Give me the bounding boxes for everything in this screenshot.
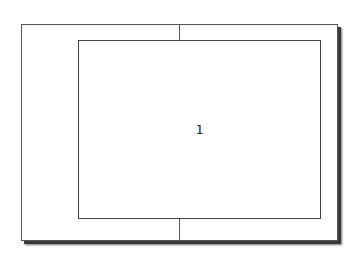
- inner-panel-label: 1: [79, 41, 320, 218]
- divider-line-bottom: [179, 218, 180, 240]
- diagram-canvas: 1: [0, 0, 361, 264]
- inner-panel: 1: [78, 40, 321, 219]
- divider-line-top: [179, 24, 180, 41]
